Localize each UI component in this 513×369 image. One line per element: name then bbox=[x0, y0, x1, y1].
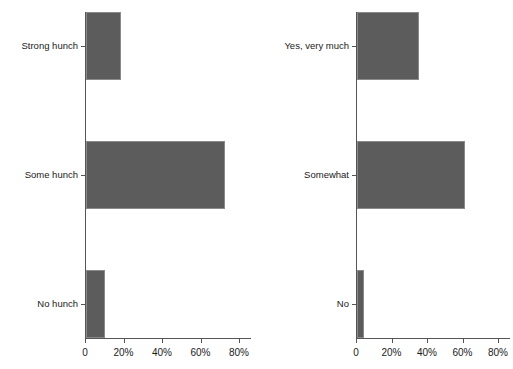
chart-panel-right: Yes, very much Somewhat No 0 20% bbox=[256, 0, 513, 369]
y-tick-some-hunch bbox=[81, 175, 86, 176]
bar-row: No bbox=[357, 270, 504, 338]
y-axis-label-somewhat: Somewhat bbox=[304, 170, 349, 180]
y-axis-label-some-hunch: Some hunch bbox=[25, 170, 78, 180]
bar-no bbox=[357, 270, 364, 338]
x-axis-spine-right bbox=[356, 338, 510, 339]
x-tick-60 bbox=[201, 338, 202, 343]
bar-row: Somewhat bbox=[357, 141, 504, 209]
x-tick-60 bbox=[463, 338, 464, 343]
x-tick-0 bbox=[85, 338, 86, 343]
plot-area-right: Yes, very much Somewhat No 0 20% bbox=[356, 0, 504, 338]
x-tick-label-40: 40% bbox=[152, 348, 172, 358]
bar-row: Yes, very much bbox=[357, 12, 504, 80]
x-tick-80 bbox=[239, 338, 240, 343]
x-tick-label-20: 20% bbox=[381, 348, 401, 358]
chart-panel-left: Strong hunch Some hunch No hunch 0 bbox=[0, 0, 256, 369]
y-axis-label-no: No bbox=[337, 299, 349, 309]
y-axis-label-no-hunch: No hunch bbox=[37, 299, 78, 309]
bar-row: No hunch bbox=[86, 270, 245, 338]
x-tick-label-40: 40% bbox=[417, 348, 437, 358]
bars-left: Strong hunch Some hunch No hunch bbox=[86, 0, 245, 338]
bar-row: Strong hunch bbox=[86, 12, 245, 80]
bars-right: Yes, very much Somewhat No bbox=[357, 0, 504, 338]
x-tick-40 bbox=[162, 338, 163, 343]
x-tick-0 bbox=[356, 338, 357, 343]
y-axis-label-yes-very-much: Yes, very much bbox=[284, 41, 349, 51]
x-tick-label-20: 20% bbox=[113, 348, 133, 358]
bar-chart-figure: Strong hunch Some hunch No hunch 0 bbox=[0, 0, 513, 369]
bar-yes-very-much bbox=[357, 12, 419, 80]
bar-somewhat bbox=[357, 141, 465, 209]
x-tick-80 bbox=[498, 338, 499, 343]
y-tick-yes-very-much bbox=[352, 46, 357, 47]
y-axis-label-strong-hunch: Strong hunch bbox=[21, 41, 78, 51]
x-tick-20 bbox=[124, 338, 125, 343]
y-tick-strong-hunch bbox=[81, 46, 86, 47]
bar-strong-hunch bbox=[86, 12, 121, 80]
y-tick-no bbox=[352, 304, 357, 305]
x-tick-label-0: 0 bbox=[82, 348, 88, 358]
plot-area-left: Strong hunch Some hunch No hunch 0 bbox=[85, 0, 245, 338]
y-tick-no-hunch bbox=[81, 304, 86, 305]
bar-some-hunch bbox=[86, 141, 225, 209]
x-tick-label-80: 80% bbox=[488, 348, 508, 358]
x-tick-40 bbox=[427, 338, 428, 343]
bar-row: Some hunch bbox=[86, 141, 245, 209]
x-axis-spine-left bbox=[85, 338, 251, 339]
y-tick-somewhat bbox=[352, 175, 357, 176]
x-tick-20 bbox=[392, 338, 393, 343]
x-tick-label-60: 60% bbox=[190, 348, 210, 358]
bar-no-hunch bbox=[86, 270, 105, 338]
x-tick-label-0: 0 bbox=[353, 348, 359, 358]
x-tick-label-60: 60% bbox=[452, 348, 472, 358]
x-tick-label-80: 80% bbox=[229, 348, 249, 358]
